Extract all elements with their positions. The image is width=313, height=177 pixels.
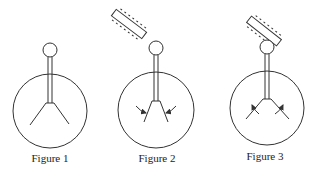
charged-rod xyxy=(110,7,149,41)
figure-2-caption: Figure 2 xyxy=(139,152,176,164)
figure-3 xyxy=(230,14,304,145)
figure-2 xyxy=(110,7,194,148)
figure-3-caption: Figure 3 xyxy=(247,150,284,162)
electroscope-jar xyxy=(230,71,304,145)
arrow-inward-left-icon xyxy=(136,106,146,113)
electroscope-jar xyxy=(118,72,194,148)
figure-1 xyxy=(13,43,87,148)
leaf-right xyxy=(160,101,168,122)
metal-knob xyxy=(149,41,163,55)
electroscope-jar xyxy=(13,74,87,148)
figure-1-caption: Figure 1 xyxy=(32,152,69,164)
arrow-outward-left-icon xyxy=(252,105,259,114)
metal-knob xyxy=(260,40,274,54)
arrow-inward-right-icon xyxy=(166,106,176,113)
leaf-left xyxy=(144,101,152,122)
leaf-right xyxy=(54,103,69,124)
electroscope-diagram: Figure 1 Figure 2 F xyxy=(0,0,313,177)
arrow-outward-right-icon xyxy=(275,105,283,114)
leaf-left xyxy=(30,103,46,125)
metal-knob xyxy=(43,43,57,57)
